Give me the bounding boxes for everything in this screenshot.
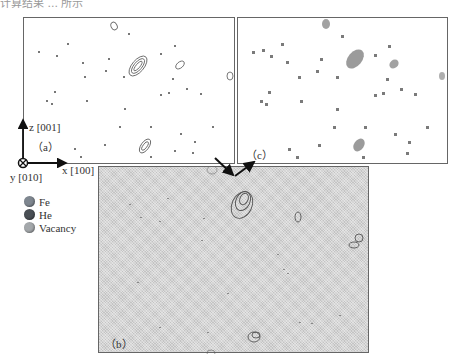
- fe-dot-icon: [24, 196, 35, 207]
- vacancy-dot-icon: [24, 222, 35, 233]
- panel-b-label: （b）: [105, 335, 133, 351]
- panel-b-clusters: [99, 167, 370, 354]
- legend: Fe He Vacancy: [24, 195, 76, 234]
- panel-a-label: （a）: [32, 138, 59, 154]
- panel-c: （c）: [237, 17, 448, 164]
- legend-item-vacancy: Vacancy: [24, 221, 76, 234]
- panel-a: （a）: [23, 17, 235, 164]
- panel-c-clusters: [238, 18, 449, 165]
- legend-item-he: He: [24, 208, 76, 221]
- cropped-caption-text: 计算结果 ... 所示: [0, 0, 83, 10]
- he-dot-icon: [24, 209, 35, 220]
- x-axis-label: x [100]: [62, 164, 94, 176]
- legend-label: He: [39, 209, 52, 221]
- z-axis-label: z [001]: [29, 121, 60, 133]
- legend-label: Fe: [39, 196, 50, 208]
- panel-b: （b）: [98, 166, 369, 353]
- y-axis-label: y [010]: [10, 171, 42, 183]
- panel-c-label: （c）: [246, 146, 273, 162]
- legend-item-fe: Fe: [24, 195, 76, 208]
- legend-label: Vacancy: [39, 222, 76, 234]
